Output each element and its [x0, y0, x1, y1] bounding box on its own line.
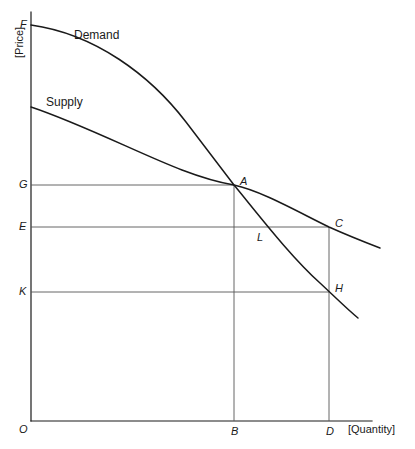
reference-lines	[31, 185, 329, 421]
x-axis-title: [Quantity]	[348, 424, 395, 435]
point-label-D: D	[326, 426, 334, 437]
point-label-H: H	[335, 283, 343, 294]
axes	[31, 12, 372, 421]
point-label-E: E	[19, 221, 26, 232]
supply-demand-figure: [Price] [Quantity] Demand Supply F G E K…	[0, 0, 415, 449]
point-label-C: C	[335, 218, 343, 229]
supply-curve-label: Supply	[46, 96, 83, 108]
demand-curve	[31, 25, 358, 318]
point-label-K: K	[19, 286, 26, 297]
point-label-O: O	[19, 424, 28, 435]
y-axis-title: [Price]	[14, 27, 25, 58]
plot-canvas	[0, 0, 415, 449]
point-label-L: L	[257, 232, 263, 243]
point-label-B: B	[231, 426, 238, 437]
demand-curve-label: Demand	[74, 29, 119, 41]
point-label-F: F	[20, 19, 27, 30]
curves	[31, 25, 380, 318]
point-label-A: A	[240, 176, 247, 187]
point-label-G: G	[19, 179, 28, 190]
